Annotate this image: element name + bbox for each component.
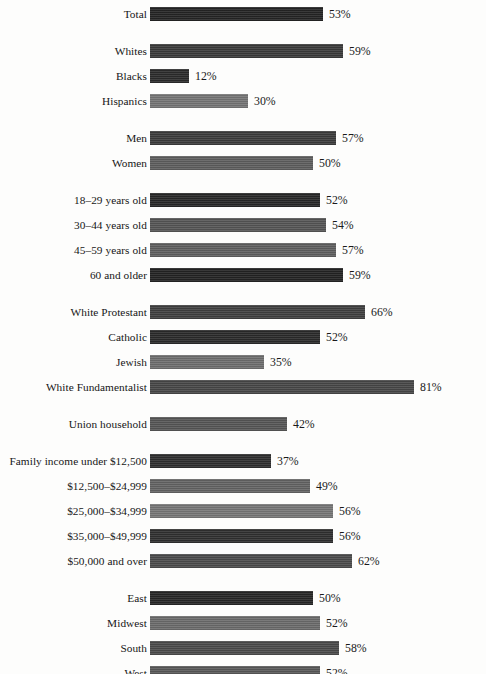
category-label: Hispanics (0, 91, 147, 111)
bar-value-label: 57% (342, 240, 364, 260)
bar (150, 243, 336, 257)
chart-row: White Fundamentalist81% (0, 377, 486, 397)
chart-row: $12,500–$24,99949% (0, 476, 486, 496)
chart-row: Hispanics30% (0, 91, 486, 111)
chart-row: Midwest52% (0, 613, 486, 633)
category-label: West (0, 663, 147, 674)
chart-row: Catholic52% (0, 327, 486, 347)
bar-container (150, 380, 414, 394)
bar-container (150, 330, 320, 344)
chart-row: Men57% (0, 128, 486, 148)
bar-container (150, 504, 333, 518)
bar-container (150, 268, 343, 282)
bar-container (150, 94, 248, 108)
bar (150, 131, 336, 145)
bar (150, 330, 320, 344)
bar-container (150, 69, 189, 83)
chart-row: Family income under $12,50037% (0, 451, 486, 471)
category-label: Family income under $12,500 (0, 451, 147, 471)
bar-value-label: 81% (420, 377, 442, 397)
bar-value-label: 52% (326, 613, 348, 633)
bar-value-label: 37% (277, 451, 299, 471)
bar-value-label: 53% (329, 4, 351, 24)
bar-value-label: 54% (332, 215, 354, 235)
chart-row: 45–59 years old57% (0, 240, 486, 260)
bar-value-label: 35% (270, 352, 292, 372)
chart-row: South58% (0, 638, 486, 658)
bar (150, 666, 320, 674)
chart-row: Union household42% (0, 414, 486, 434)
bar (150, 591, 313, 605)
category-label: 30–44 years old (0, 215, 147, 235)
bar-value-label: 59% (349, 41, 371, 61)
bar-value-label: 50% (319, 153, 341, 173)
category-label: White Protestant (0, 302, 147, 322)
bar-container (150, 131, 336, 145)
bar-container (150, 305, 365, 319)
bar-container (150, 7, 323, 21)
bar-container (150, 44, 343, 58)
bar (150, 268, 343, 282)
bar-container (150, 243, 336, 257)
bar-container (150, 454, 271, 468)
bar-container (150, 156, 313, 170)
bar (150, 7, 323, 21)
chart-row: $25,000–$34,99956% (0, 501, 486, 521)
bar-value-label: 42% (293, 414, 315, 434)
bar-value-label: 52% (326, 663, 348, 674)
category-label: White Fundamentalist (0, 377, 147, 397)
bar-value-label: 62% (358, 551, 380, 571)
chart-row: West52% (0, 663, 486, 674)
bar-value-label: 66% (371, 302, 393, 322)
category-label: Union household (0, 414, 147, 434)
chart-row: Jewish35% (0, 352, 486, 372)
bar-container (150, 479, 310, 493)
bar-value-label: 59% (349, 265, 371, 285)
bar (150, 218, 326, 232)
bar-container (150, 591, 313, 605)
category-label: 60 and older (0, 265, 147, 285)
category-label: Jewish (0, 352, 147, 372)
bar (150, 94, 248, 108)
bar-value-label: 57% (342, 128, 364, 148)
bar-container (150, 641, 339, 655)
category-label: Whites (0, 41, 147, 61)
bar-container (150, 218, 326, 232)
chart-row: Total53% (0, 4, 486, 24)
bar (150, 529, 333, 543)
category-label: Blacks (0, 66, 147, 86)
bar-container (150, 666, 320, 674)
category-label: Women (0, 153, 147, 173)
chart-row: 30–44 years old54% (0, 215, 486, 235)
chart-row: East50% (0, 588, 486, 608)
bar-container (150, 529, 333, 543)
bar-value-label: 12% (195, 66, 217, 86)
bar (150, 380, 414, 394)
bar (150, 156, 313, 170)
bar-value-label: 56% (339, 501, 361, 521)
category-label: Men (0, 128, 147, 148)
bar (150, 554, 352, 568)
bar (150, 479, 310, 493)
bar (150, 355, 264, 369)
category-label: South (0, 638, 147, 658)
bar (150, 641, 339, 655)
chart-row: Whites59% (0, 41, 486, 61)
bar (150, 44, 343, 58)
category-label: East (0, 588, 147, 608)
category-label: Total (0, 4, 147, 24)
bar-container (150, 554, 352, 568)
category-label: Midwest (0, 613, 147, 633)
bar (150, 305, 365, 319)
bar-container (150, 355, 264, 369)
category-label: Catholic (0, 327, 147, 347)
bar (150, 193, 320, 207)
chart-row: $35,000–$49,99956% (0, 526, 486, 546)
category-label: $12,500–$24,999 (0, 476, 147, 496)
bar-value-label: 56% (339, 526, 361, 546)
chart-row: 18–29 years old52% (0, 190, 486, 210)
bar (150, 504, 333, 518)
category-label: 45–59 years old (0, 240, 147, 260)
bar-container (150, 417, 287, 431)
bar-value-label: 52% (326, 190, 348, 210)
